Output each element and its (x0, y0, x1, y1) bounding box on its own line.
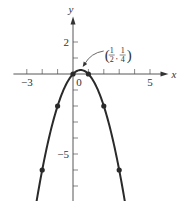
data-point (55, 103, 60, 108)
annotation-y-numerator: 1 (121, 46, 125, 55)
x-tick-label: 5 (147, 76, 153, 88)
data-point (117, 167, 122, 172)
x-tick-label: 0 (76, 76, 82, 88)
data-point (70, 71, 75, 76)
x-tick-label: −3 (21, 76, 33, 88)
y-tick-label: 2 (64, 36, 70, 48)
annotation-x-denominator: 2 (110, 55, 114, 64)
y-axis-arrow-icon (71, 16, 76, 24)
parabola-chart: −3052−5xy(12,14) (0, 0, 185, 201)
data-point (40, 167, 45, 172)
x-axis-arrow-icon (160, 72, 168, 77)
annotation-x-numerator: 1 (110, 46, 114, 55)
parabola-curve (35, 70, 126, 201)
x-axis-label: x (170, 68, 176, 80)
annotation-close-paren: ) (127, 47, 132, 64)
data-point (86, 71, 91, 76)
annotation-comma: , (116, 52, 118, 61)
annotation-leader (85, 51, 104, 64)
annotation-arrow-icon (83, 62, 88, 68)
data-point (101, 103, 106, 108)
y-tick-label: −5 (57, 148, 69, 160)
annotation-y-denominator: 4 (121, 55, 125, 64)
y-axis-label: y (68, 3, 74, 15)
